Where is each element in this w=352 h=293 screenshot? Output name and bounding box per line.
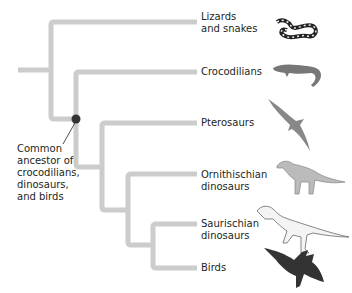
taxon-label-birds: Birds (201, 262, 226, 274)
branch-ornithodira (102, 123, 197, 210)
taxon-label-crocodilians: Crocodilians (201, 66, 262, 78)
taxon-label-ornithischian: Ornithischian dinosaurs (201, 169, 267, 193)
branch-archosaur (76, 72, 197, 167)
taxon-label-saurischian: Saurischian dinosaurs (201, 218, 259, 242)
branch-dinosauria (128, 174, 197, 245)
node-archosaur (72, 115, 81, 124)
hadrosaur-icon (277, 161, 345, 194)
common-ancestor-annotation: Common ancestor of crocodilians, dinosau… (17, 143, 80, 203)
theropod-icon (257, 206, 349, 253)
branch-saurischia (153, 224, 197, 268)
crocodile-icon (273, 64, 321, 87)
snake-icon (277, 20, 316, 37)
bird-icon (264, 248, 324, 288)
taxon-label-pterosaurs: Pterosaurs (201, 117, 254, 129)
pterosaur-icon (268, 99, 310, 151)
taxon-label-lizards: Lizards and snakes (201, 11, 257, 35)
